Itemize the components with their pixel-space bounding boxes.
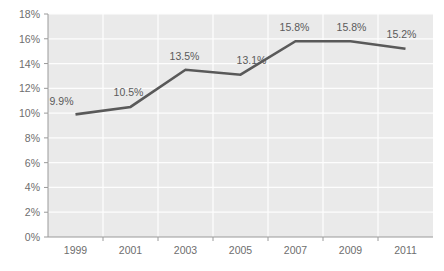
x-axis-tick-label: 2007 [284,244,308,256]
y-axis-tick-label: 2% [25,206,40,218]
x-axis-tick-label: 2005 [229,244,253,256]
y-axis-tick-label: 12% [19,82,40,94]
line-chart: 0%2%4%6%8%10%12%14%16%18% 19992001200320… [0,0,444,271]
data-point-label: 9.9% [50,95,74,107]
data-point-label: 15.8% [337,21,367,33]
x-axis-tick-label: 2003 [174,244,198,256]
y-axis-tick-label: 10% [19,107,40,119]
y-axis-tick-label: 4% [25,181,40,193]
plot-area [48,14,433,237]
y-axis-tick-label: 16% [19,33,40,45]
y-axis-tick-label: 6% [25,157,40,169]
y-axis-tick-label: 0% [25,231,40,243]
x-axis-tick-label: 2011 [394,244,417,256]
data-point-label: 13.1% [237,54,267,66]
y-axis-tick-label: 14% [19,58,40,70]
y-axis-tick-label: 8% [25,132,40,144]
data-point-label: 10.5% [114,86,144,98]
x-axis-tick-label: 2009 [339,244,363,256]
data-point-label: 15.8% [280,21,310,33]
y-axis-tick-label: 18% [19,8,40,20]
data-point-label: 15.2% [387,28,417,40]
chart-canvas: 0%2%4%6%8%10%12%14%16%18% 19992001200320… [0,0,444,271]
data-point-label: 13.5% [170,50,200,62]
x-axis-tick-label: 1999 [64,244,88,256]
x-axis-tick-label: 2001 [119,244,143,256]
